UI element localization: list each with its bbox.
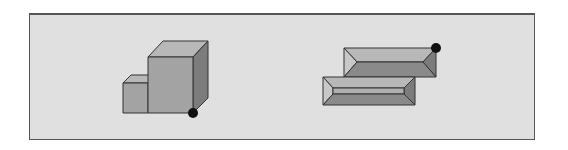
big-cube-front <box>148 57 193 113</box>
upper-slab-top-bevel <box>344 48 436 62</box>
small-cube-front <box>123 83 148 113</box>
lower-slab-center <box>333 88 404 94</box>
lower-slab-top-bevel <box>323 77 415 88</box>
upper-slab-bottom-bevel <box>344 62 436 77</box>
diagram-canvas <box>0 0 568 150</box>
lower-slab-bottom-bevel <box>323 94 415 105</box>
stacked-cubes <box>123 41 208 118</box>
corner-marker <box>188 108 198 118</box>
beveled-slabs <box>323 43 441 105</box>
corner-marker <box>431 43 441 53</box>
